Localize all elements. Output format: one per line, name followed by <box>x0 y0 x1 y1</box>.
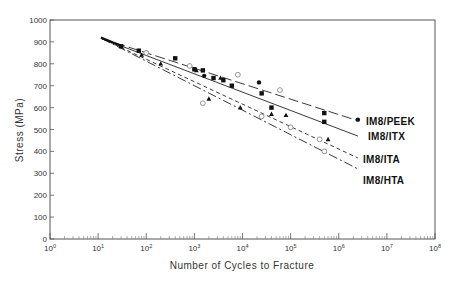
y-tick-label: 1000 <box>29 16 47 25</box>
x-tick-label: 102 <box>140 243 152 253</box>
x-axis-title: Number of Cycles to Fracture <box>170 260 315 271</box>
square-marker <box>201 68 205 72</box>
plot-frame <box>50 20 435 239</box>
x-tick-label: 108 <box>429 243 441 253</box>
open-circle-marker <box>317 137 322 142</box>
data-points <box>119 44 360 154</box>
x-tick-label: 106 <box>333 243 345 253</box>
open-circle-marker <box>187 64 192 69</box>
x-tick-label: 107 <box>381 243 393 253</box>
fit-origin-stroke <box>101 38 120 46</box>
y-axis-title: Stress (MPa) <box>14 98 25 162</box>
y-tick-label: 200 <box>34 191 48 200</box>
circle-marker <box>202 74 206 78</box>
series-label-im8-ita: IM8/ITA <box>363 154 400 165</box>
circle-marker <box>356 117 360 121</box>
series-label-im8-peek: IM8/PEEK <box>366 116 416 127</box>
plot-border <box>50 20 435 239</box>
y-tick-label: 600 <box>34 104 48 113</box>
x-axis: 100101102103104105106107108 <box>44 233 441 253</box>
open-circle-marker <box>322 149 327 154</box>
square-marker <box>137 48 141 52</box>
y-tick-label: 0 <box>43 235 48 244</box>
triangle-marker <box>326 137 331 141</box>
square-marker <box>322 120 326 124</box>
triangle-marker <box>238 105 243 109</box>
circle-marker <box>257 80 261 84</box>
triangle-marker <box>206 96 211 100</box>
square-marker <box>230 84 234 88</box>
y-tick-label: 300 <box>34 169 48 178</box>
series-labels: IM8/PEEKIM8/ITXIM8/ITAIM8/HTA <box>363 116 416 186</box>
y-tick-label: 700 <box>34 82 48 91</box>
open-circle-marker <box>200 101 205 106</box>
y-tick-label: 800 <box>34 60 48 69</box>
square-marker <box>269 105 273 109</box>
open-circle-marker <box>144 50 149 55</box>
series-label-im8-itx: IM8/ITX <box>368 131 405 142</box>
square-marker <box>322 111 326 115</box>
fit-line-im8-hta <box>102 39 358 169</box>
fatigue-chart: 01002003004005006007008009001000 1001011… <box>0 0 459 281</box>
y-tick-label: 400 <box>34 147 48 156</box>
x-tick-label: 101 <box>92 243 104 253</box>
x-tick-label: 104 <box>237 243 249 253</box>
square-marker <box>211 76 215 80</box>
y-tick-label: 100 <box>34 213 48 222</box>
x-tick-label: 103 <box>188 243 200 253</box>
y-tick-label: 500 <box>34 126 48 135</box>
fit-lines <box>101 38 358 169</box>
open-circle-marker <box>278 88 283 93</box>
open-circle-marker <box>235 72 240 77</box>
triangle-marker <box>269 112 274 116</box>
y-tick-label: 900 <box>34 38 48 47</box>
triangle-marker <box>284 113 289 117</box>
square-marker <box>259 91 263 95</box>
square-marker <box>173 56 177 60</box>
x-tick-label: 105 <box>285 243 297 253</box>
series-label-im8-hta: IM8/HTA <box>363 175 404 186</box>
square-marker <box>119 44 123 48</box>
x-tick-label: 100 <box>44 243 56 253</box>
open-circle-marker <box>288 125 293 130</box>
open-circle-marker <box>259 114 264 119</box>
